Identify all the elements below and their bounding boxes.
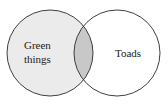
label-green-things-line1: Green [24,39,51,51]
label-toads: Toads [115,47,141,59]
venn-diagram: Green things Toads [0,0,168,107]
label-green-things-line2: things [24,53,51,65]
